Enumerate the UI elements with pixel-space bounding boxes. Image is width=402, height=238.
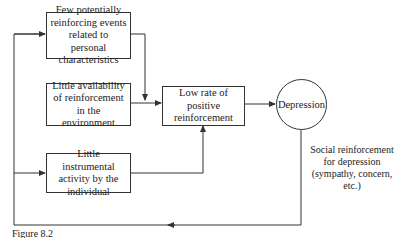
node-few-events: Few potentially reinforcing events relat…	[46, 12, 131, 59]
arrow-activity-to-low-rate	[130, 126, 203, 173]
node-depression: Depression	[276, 79, 327, 130]
node-little-activity: Little instrumental activity by the indi…	[46, 153, 131, 193]
arrow-few-events-to-low-rate	[130, 34, 145, 100]
feedback-label: Social reinforcement for depression (sym…	[306, 144, 398, 192]
node-low-rate: Low rate of positive reinforcement	[162, 86, 245, 126]
figure-caption: Figure 8.2	[12, 228, 53, 238]
node-little-availability: Little availability of reinforcement in …	[46, 83, 131, 126]
